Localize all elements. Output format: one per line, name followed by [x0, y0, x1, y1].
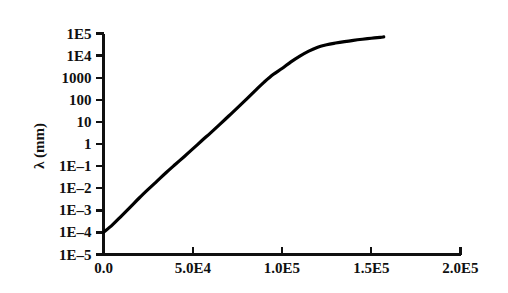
- y-tick-label-4: 10: [77, 114, 92, 129]
- x-tick-label-3: 1.5E5: [353, 261, 389, 276]
- y-tick-label-3: 100: [69, 92, 92, 107]
- y-tick-label-10: 1E–5: [59, 247, 92, 262]
- y-tick-label-7: 1E–2: [59, 181, 92, 196]
- y-tick-label-6: 1E–1: [59, 159, 92, 174]
- y-tick-label-1: 1E4: [66, 48, 91, 63]
- x-tick-label-2: 1.0E5: [264, 261, 300, 276]
- y-tick-label-5: 1: [84, 137, 92, 152]
- x-tick-label-0: 0.0: [94, 261, 113, 276]
- chart-container: 1E51E410001001011E–11E–21E–31E–41E–5 0.0…: [0, 0, 508, 293]
- data-line-lambda: [104, 37, 384, 232]
- y-tick-label-2: 1000: [62, 70, 92, 85]
- x-tick-label-4: 2.0E5: [442, 261, 478, 276]
- axis-ticks: [96, 34, 461, 255]
- y-tick-label-0: 1E5: [66, 26, 91, 41]
- data-series-group: [104, 37, 384, 232]
- x-tick-label-1: 5.0E4: [175, 261, 211, 276]
- y-axis-title: λ (mm): [31, 123, 48, 169]
- y-tick-label-8: 1E–3: [59, 203, 92, 218]
- y-tick-label-9: 1E–4: [59, 225, 92, 240]
